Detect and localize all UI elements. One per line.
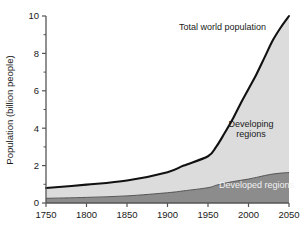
x-tick-label-1750: 1750 (35, 209, 56, 220)
y-tick-label-4: 4 (34, 123, 39, 134)
y-tick-label-6: 6 (34, 85, 39, 96)
y-tick-label-8: 8 (34, 48, 39, 59)
y-tick-label-10: 10 (28, 10, 39, 21)
x-tick-label-1900: 1900 (157, 209, 178, 220)
x-tick-label-1800: 1800 (76, 209, 97, 220)
y-tick-label-2: 2 (34, 160, 39, 171)
annotation-developed-regions: Developed regions (219, 180, 295, 190)
y-axis-title: Population (billion people) (4, 55, 15, 164)
x-tick-label-1850: 1850 (116, 209, 137, 220)
x-tick-label-2050: 2050 (278, 209, 299, 220)
annotation-total-world-population: Total world population (179, 22, 266, 32)
x-tick-label-2000: 2000 (238, 209, 259, 220)
x-tick-label-1950: 1950 (197, 209, 218, 220)
population-area-chart: 0246810 1750180018501900195020002050 Pop… (0, 0, 308, 233)
y-tick-label-0: 0 (34, 197, 39, 208)
population-chart-figure: 0246810 1750180018501900195020002050 Pop… (0, 0, 308, 233)
annotation-developing-regions-line2: regions (236, 129, 266, 139)
